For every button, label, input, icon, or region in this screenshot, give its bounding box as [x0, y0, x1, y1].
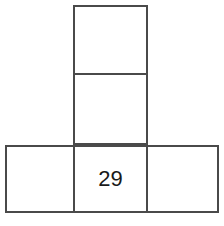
cell-top-square	[73, 5, 148, 75]
cell-bottom-right-square	[148, 145, 219, 213]
cell-middle-square	[73, 75, 148, 145]
cell-bottom-center-square-label: 29	[98, 168, 122, 190]
figure-canvas: 29	[0, 0, 224, 226]
cell-bottom-left-square	[5, 145, 73, 213]
cell-bottom-center-square: 29	[73, 145, 148, 213]
